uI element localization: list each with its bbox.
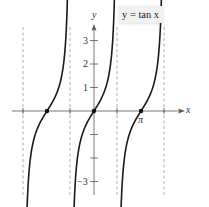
zero-point	[45, 109, 49, 113]
y-axis-label: y	[92, 10, 96, 20]
chart-title: y = tan x	[122, 9, 159, 20]
zero-point	[139, 109, 143, 113]
x-axis-label: x	[186, 105, 190, 115]
tan-branch-left	[26, 0, 68, 207]
zero-point	[92, 109, 96, 113]
tan-branch-right	[120, 0, 162, 207]
x-tick-label-pi: π	[138, 115, 143, 125]
tangent-graph	[0, 0, 209, 207]
y-tick-label-3: 3	[83, 36, 88, 46]
y-tick-label-2: 2	[83, 59, 88, 69]
x-axis	[12, 108, 182, 114]
y-tick-label-1: 1	[83, 83, 88, 93]
y-tick-label-neg3: −3	[77, 177, 88, 187]
